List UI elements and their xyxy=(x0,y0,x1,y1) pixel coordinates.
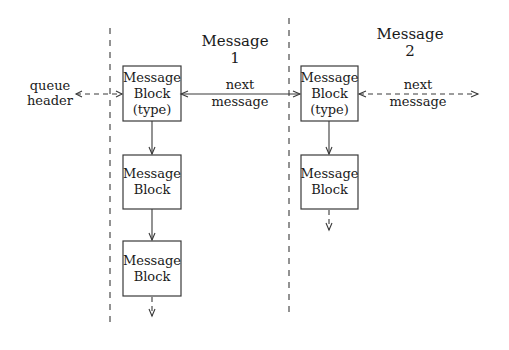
svg-text:Block: Block xyxy=(134,86,171,101)
svg-text:Message: Message xyxy=(300,70,358,85)
svg-text:message: message xyxy=(211,94,268,109)
svg-text:Message: Message xyxy=(376,25,443,43)
svg-text:1: 1 xyxy=(230,49,240,67)
message2-block-2: Message Block xyxy=(300,155,358,209)
svg-text:Message: Message xyxy=(123,70,181,85)
next-message-link-1: next message xyxy=(181,77,300,109)
message1-continuation-arrow xyxy=(149,297,155,316)
svg-text:Message: Message xyxy=(123,166,181,181)
svg-text:Block: Block xyxy=(311,86,348,101)
svg-text:(type): (type) xyxy=(133,102,172,117)
svg-text:Message: Message xyxy=(201,32,268,50)
svg-text:Block: Block xyxy=(134,182,171,197)
svg-text:next: next xyxy=(404,77,433,92)
svg-text:queue: queue xyxy=(30,78,71,93)
message2-continuation-arrow xyxy=(326,210,332,230)
queue-header-arrow xyxy=(76,91,122,97)
message1-arrow-1-2 xyxy=(149,121,155,154)
svg-text:2: 2 xyxy=(405,42,415,60)
message-1-title: Message 1 xyxy=(201,32,268,67)
next-message-link-2: next message xyxy=(359,77,478,109)
message1-block-3: Message Block xyxy=(123,241,181,296)
svg-text:Block: Block xyxy=(311,182,348,197)
svg-text:(type): (type) xyxy=(310,102,349,117)
queue-header-label: queue header xyxy=(27,78,74,108)
svg-text:Message: Message xyxy=(123,253,181,268)
message2-arrow-1-2 xyxy=(326,121,332,154)
message1-block-1: Message Block (type) xyxy=(123,66,181,121)
message-2-title: Message 2 xyxy=(376,25,443,60)
message2-block-1: Message Block (type) xyxy=(300,66,358,121)
svg-text:Message: Message xyxy=(300,166,358,181)
svg-text:next: next xyxy=(226,77,255,92)
message1-block-2: Message Block xyxy=(123,155,181,209)
message-queue-diagram: Message 1 Message 2 queue header Message… xyxy=(0,0,509,350)
svg-text:header: header xyxy=(27,93,74,108)
message1-arrow-2-3 xyxy=(149,209,155,240)
svg-text:message: message xyxy=(389,94,446,109)
svg-text:Block: Block xyxy=(134,269,171,284)
